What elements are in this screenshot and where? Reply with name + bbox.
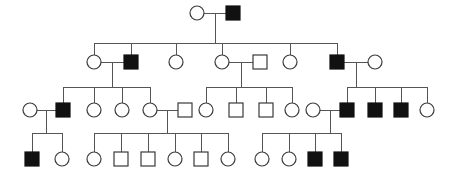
individual-II-6-female-unaffected[interactable]: [283, 55, 297, 69]
individual-IV-6-female-unaffected[interactable]: [168, 152, 182, 166]
individual-III-13-male-affected[interactable]: [368, 103, 382, 117]
individual-IV-3-female-unaffected[interactable]: [87, 152, 101, 166]
individual-IV-7-male-unaffected[interactable]: [194, 152, 208, 166]
individual-II-2-male-affected[interactable]: [124, 55, 138, 69]
individual-III-9-male-unaffected[interactable]: [259, 103, 273, 117]
individual-IV-11-male-affected[interactable]: [308, 152, 322, 166]
individual-II-7-male-affected[interactable]: [330, 55, 344, 69]
individual-III-6-male-unaffected[interactable]: [178, 103, 192, 117]
individual-II-8-female-unaffected[interactable]: [368, 55, 382, 69]
individual-III-2-male-affected[interactable]: [56, 103, 70, 117]
individual-III-3-female-unaffected[interactable]: [87, 103, 101, 117]
individual-IV-2-female-unaffected[interactable]: [55, 152, 69, 166]
individual-IV-10-female-unaffected[interactable]: [282, 152, 296, 166]
individual-IV-5-male-unaffected[interactable]: [141, 152, 155, 166]
individual-IV-8-female-unaffected[interactable]: [221, 152, 235, 166]
individual-II-1-female-unaffected[interactable]: [87, 55, 101, 69]
individual-III-10-female-unaffected[interactable]: [285, 103, 299, 117]
individual-II-4-female-unaffected[interactable]: [215, 55, 229, 69]
individual-IV-4-male-unaffected[interactable]: [114, 152, 128, 166]
individual-III-15-female-unaffected[interactable]: [420, 103, 434, 117]
individual-IV-1-male-affected[interactable]: [25, 152, 39, 166]
individual-II-3-female-unaffected[interactable]: [169, 55, 183, 69]
individual-III-11-female-unaffected[interactable]: [306, 103, 320, 117]
pedigree-chart: [0, 0, 451, 179]
individual-I-1-female-unaffected[interactable]: [190, 6, 204, 20]
individual-III-4-female-unaffected[interactable]: [115, 103, 129, 117]
individual-III-7-female-unaffected[interactable]: [199, 103, 213, 117]
individual-IV-9-female-unaffected[interactable]: [255, 152, 269, 166]
individual-III-14-male-affected[interactable]: [394, 103, 408, 117]
individual-III-12-male-affected[interactable]: [340, 103, 354, 117]
individual-I-2-male-affected[interactable]: [226, 6, 240, 20]
individual-IV-12-male-affected[interactable]: [334, 152, 348, 166]
individual-II-5-male-unaffected[interactable]: [253, 55, 267, 69]
connector-lines-layer: [32, 13, 427, 152]
individual-III-5-female-unaffected[interactable]: [143, 103, 157, 117]
pedigree-canvas: [0, 0, 451, 179]
individual-III-8-male-unaffected[interactable]: [229, 103, 243, 117]
individual-III-1-female-unaffected[interactable]: [23, 103, 37, 117]
